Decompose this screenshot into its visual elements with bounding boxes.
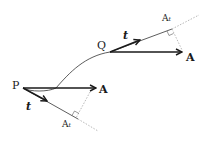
curve-path — [23, 52, 110, 91]
parallel-transport-diagram: P Q A t At A t At — [0, 0, 209, 142]
tangent-line-extension-at-P — [78, 119, 98, 131]
tangent-line-extension-at-Q — [172, 15, 199, 29]
point-label-P: P — [12, 80, 19, 91]
label-At-at-Q-subscript: t — [169, 15, 171, 22]
diagram-canvas — [0, 0, 209, 142]
point-label-Q: Q — [97, 40, 106, 51]
right-angle-marker-at-Q — [167, 31, 174, 36]
label-At-at-Q: At — [162, 14, 171, 23]
label-t-at-P: t — [26, 101, 31, 112]
label-At-at-P-subscript: t — [69, 121, 71, 128]
right-angle-marker-at-P — [72, 111, 79, 116]
label-A-at-Q: A — [186, 52, 195, 63]
label-t-at-Q: t — [123, 30, 128, 41]
projection-line-at-Q — [172, 29, 182, 50]
label-A-at-P: A — [99, 84, 108, 95]
projection-line-at-P — [76, 92, 90, 118]
label-At-at-P: At — [62, 120, 71, 129]
